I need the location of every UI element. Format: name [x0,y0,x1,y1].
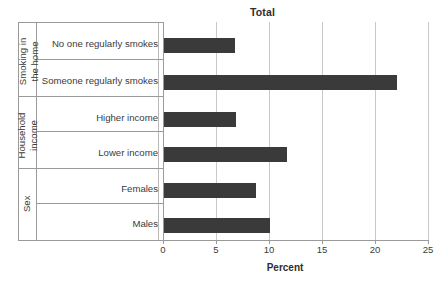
group-label-sex-line1: Sex [21,195,32,212]
x-tick-label-25: 25 [413,244,443,255]
group-rule-top [18,22,163,23]
gridline-10 [269,22,270,240]
bar-females [163,183,256,198]
bar-someone-regularly-smokes [163,75,397,90]
bar-males [163,218,270,233]
group-label-income-line2: income [27,120,38,151]
gridline-5 [216,22,217,240]
group-bracket-sex [18,168,19,240]
category-bracket-right [163,22,164,240]
gridline-15 [322,22,323,240]
group-label-smoking-line1: Smoking in [17,38,28,85]
group-label-sex: Sex [21,166,33,242]
category-rule-income-split [36,131,163,132]
group-label-household-income: Household income [16,98,39,174]
x-tick-label-0: 0 [148,244,178,255]
gridline-20 [375,22,376,240]
group-rule-income-sex [18,168,163,169]
group-rule-smoking-income [18,96,163,97]
bar-higher-income [163,112,236,127]
x-tick-label-15: 15 [307,244,337,255]
bar-no-one-regularly-smokes [163,38,235,53]
group-label-smoking-in-the-home: Smoking in the home [17,24,40,100]
plot-area [163,22,428,240]
bar-lower-income [163,147,287,162]
bar-chart: Total 0 5 10 15 20 25 Percent No one reg… [0,0,443,282]
category-rule-smoking-split [36,59,163,60]
group-rule-bottom [18,240,163,241]
group-label-income-line1: Household [16,113,27,159]
category-rule-sex-split [36,203,163,204]
x-tick-label-5: 5 [201,244,231,255]
gridline-25 [428,22,429,240]
x-tick-label-10: 10 [254,244,284,255]
group-label-smoking-line2: the home [28,42,39,82]
chart-title: Total [210,6,315,18]
x-axis-title: Percent [225,262,345,273]
x-tick-label-20: 20 [360,244,390,255]
